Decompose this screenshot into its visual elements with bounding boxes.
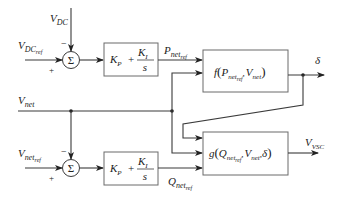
plus-sign-top: + — [49, 65, 54, 75]
label-p-ref: Pnetref — [163, 44, 188, 60]
sigma-symbol-bottom: Σ — [68, 162, 74, 174]
pi-bottom-den: s — [143, 170, 147, 182]
pi-top-den: s — [143, 61, 147, 73]
pi-top-plus: + — [128, 53, 134, 65]
label-vnet: Vnet — [18, 94, 35, 109]
minus-sign-top: − — [61, 38, 67, 49]
sigma-symbol-top: Σ — [68, 54, 74, 66]
label-delta: δ — [315, 54, 321, 66]
plus-sign-bottom: + — [49, 173, 54, 183]
control-diagram: VDC − VDCref + Σ KP + KI s Pnetref f(Pne… — [0, 0, 346, 198]
minus-sign-bottom: − — [61, 146, 67, 157]
pi-bottom-plus: + — [128, 162, 134, 174]
wire-vnet-to-f — [172, 73, 202, 111]
label-vdc-ref: VDCref — [18, 39, 44, 55]
label-vvsc: VVSC — [305, 136, 325, 151]
wire-vnet-to-g — [172, 111, 202, 153]
label-q-ref: Qnetref — [168, 175, 194, 191]
label-vnet-ref: Vnetref — [18, 147, 42, 163]
label-vdc: VDC — [50, 12, 69, 27]
